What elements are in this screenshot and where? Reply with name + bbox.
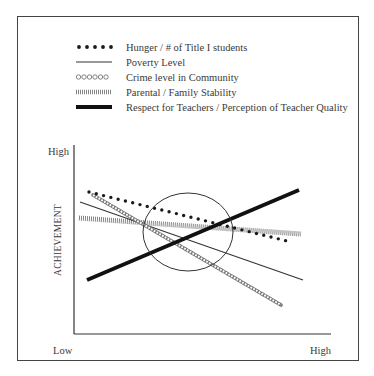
series-respect-line [87, 190, 299, 280]
x-axis-low-label: Low [53, 345, 73, 356]
series-parental-line [79, 218, 301, 234]
x-axis-high-label: High [310, 345, 332, 356]
chart-plot: High ACHIEVEMENT Low High [0, 0, 374, 376]
y-axis-title: ACHIEVEMENT [53, 204, 63, 276]
y-axis-high-label: High [48, 146, 70, 157]
